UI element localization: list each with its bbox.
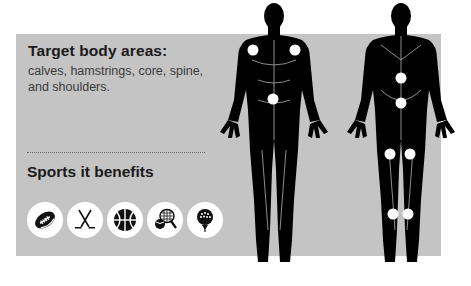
front-body-figure (210, 0, 340, 270)
marker-left-hamstring (385, 149, 396, 160)
hockey-sticks-icon (67, 202, 103, 238)
marker-right-shoulder (290, 45, 301, 56)
dotted-divider (27, 152, 205, 153)
sports-title: Sports it benefits (27, 163, 154, 181)
tennis-racket-icon (147, 202, 183, 238)
basketball-icon (107, 202, 143, 238)
back-body-figure (336, 0, 466, 270)
target-areas-description: calves, hamstrings, core, spine, and sho… (28, 64, 208, 95)
marker-left-calf (388, 209, 399, 220)
marker-left-shoulder (248, 45, 259, 56)
target-areas-title: Target body areas: (28, 42, 167, 60)
marker-right-calf (403, 209, 414, 220)
marker-lower-spine (396, 98, 407, 109)
marker-right-hamstring (405, 149, 416, 160)
marker-upper-spine (396, 73, 407, 84)
football-icon (27, 202, 63, 238)
marker-core (268, 94, 279, 105)
sports-icon-list (27, 202, 223, 238)
